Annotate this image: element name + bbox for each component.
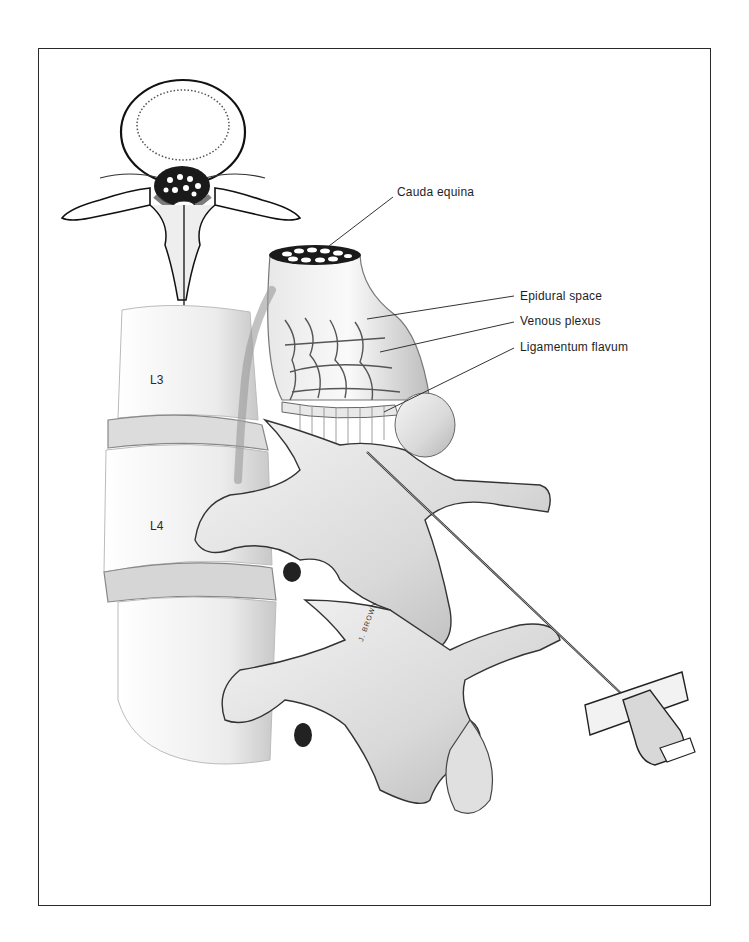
label-ligamentum-flavum: Ligamentum flavum xyxy=(520,340,628,354)
leader-cauda-equina xyxy=(329,197,393,246)
l4-l5-disc xyxy=(104,563,276,602)
label-venous-plexus: Venous plexus xyxy=(520,314,601,328)
spine-illustration xyxy=(0,0,749,942)
l3-body xyxy=(118,305,258,420)
leader-epidural-space xyxy=(367,296,514,319)
label-cauda-equina: Cauda equina xyxy=(397,185,474,199)
label-l3: L3 xyxy=(150,373,163,387)
l5-foramen xyxy=(294,723,312,747)
l4-foramen xyxy=(283,562,301,582)
label-epidural-space: Epidural space xyxy=(520,289,602,303)
label-l4: L4 xyxy=(150,519,163,533)
